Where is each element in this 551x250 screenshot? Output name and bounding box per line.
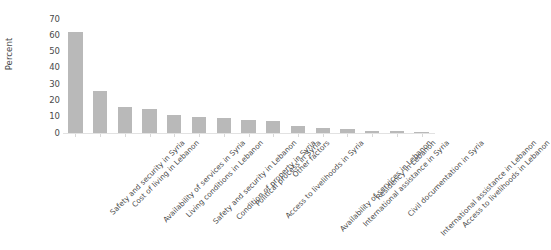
plot-area: [63, 19, 434, 133]
y-axis-tick-label: 60: [49, 31, 60, 40]
x-axis-tick-mark: [75, 134, 76, 137]
x-axis-tick-mark: [347, 134, 348, 137]
y-axis-tick-labels: 010203040506070: [38, 12, 62, 140]
bar: [142, 109, 156, 133]
x-axis-tick-mark: [397, 134, 398, 137]
x-axis-tick-mark: [298, 134, 299, 137]
bar: [167, 115, 181, 133]
bars-layer: [63, 19, 434, 133]
x-axis-tick-mark: [372, 134, 373, 137]
bar: [68, 32, 82, 133]
x-axis-tick-label: International assistance in Lebanon: [439, 139, 538, 238]
x-axis-tick-mark: [273, 134, 274, 137]
x-axis-tick-mark: [323, 134, 324, 137]
x-axis-tick-mark: [174, 134, 175, 137]
x-axis-tick-mark: [422, 134, 423, 137]
x-axis-tick-mark: [100, 134, 101, 137]
y-axis-tick-label: 30: [49, 80, 60, 89]
bar: [93, 91, 107, 133]
y-axis-tick-label: 0: [55, 129, 60, 138]
x-axis-tick-mark: [249, 134, 250, 137]
bar: [217, 118, 231, 133]
bar: [241, 120, 255, 133]
y-axis-title: Percent: [4, 24, 14, 84]
y-axis-tick-label: 40: [49, 63, 60, 72]
y-axis-tick-label: 70: [49, 15, 60, 24]
x-axis-tick-mark: [224, 134, 225, 137]
x-axis-tick-mark: [199, 134, 200, 137]
y-axis-tick-label: 50: [49, 47, 60, 56]
bar: [192, 117, 206, 133]
bar: [266, 121, 280, 133]
bar: [118, 107, 132, 133]
y-axis-tick-label: 10: [49, 112, 60, 121]
x-axis-tick-mark: [150, 134, 151, 137]
y-axis-tick-label: 20: [49, 96, 60, 105]
x-axis-tick-mark: [125, 134, 126, 137]
bar: [291, 126, 305, 133]
